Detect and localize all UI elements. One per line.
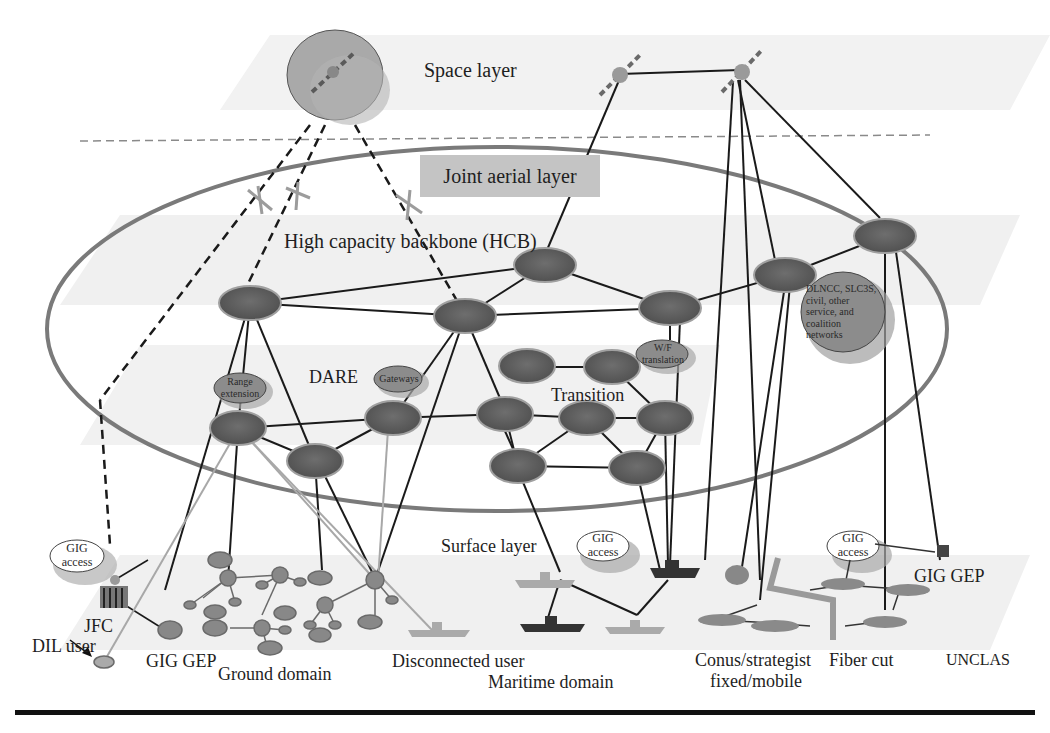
dlncc-networks-cloud: DLNCC, SLC3S, civil, other service, and …: [806, 283, 888, 341]
unclas-label: UNCLAS: [946, 651, 1010, 669]
dare-label: DARE: [309, 368, 358, 388]
gateways-cloud: Gateways: [374, 373, 424, 385]
hcb-node: [219, 286, 281, 320]
gig-gep-left-label: GIG GEP: [146, 652, 217, 672]
gig-access-cloud-right: GIG access: [830, 532, 876, 560]
hcb-node: [514, 248, 576, 282]
transition-label: Transition: [551, 386, 624, 406]
hcb-node: [434, 299, 496, 333]
fiber-cut-label: Fiber cut: [829, 651, 894, 671]
diagram-canvas: [0, 0, 1050, 733]
gig-access-cloud-left: GIG access: [54, 542, 100, 570]
joint-aerial-layer-label: Joint aerial layer: [443, 165, 576, 188]
conus-fixed-mobile-label: fixed/mobile: [710, 672, 802, 692]
conus-vehicle-icon: [725, 565, 749, 585]
conus-label: Conus/strategist: [695, 651, 811, 671]
jfc-label: JFC: [84, 617, 113, 637]
bottom-rule: [15, 710, 1035, 715]
link-failure-marks: [248, 182, 422, 220]
transition-node: [499, 349, 555, 383]
gig-access-cloud-mid: GIG access: [580, 532, 626, 560]
gig-gep-right-icon: [937, 545, 949, 557]
transition-node: [609, 451, 665, 485]
hcb-node: [854, 219, 916, 253]
hcb-label: High capacity backbone (HCB): [284, 230, 537, 252]
disconnected-user-label: Disconnected user: [392, 652, 524, 672]
hcb-node: [639, 291, 701, 325]
dare-node: [287, 444, 343, 478]
dare-node: [365, 401, 421, 435]
wf-translation-cloud: W/F translation: [637, 342, 689, 365]
gig-gep-right-label: GIG GEP: [914, 567, 985, 587]
ground-domain-label: Ground domain: [218, 665, 331, 685]
range-extension-cloud: Range extension: [215, 376, 265, 399]
transition-node: [584, 350, 640, 384]
surface-layer-label: Surface layer: [441, 537, 536, 557]
dil-user-label: DIL user: [32, 637, 96, 657]
joint-aerial-layer-box: Joint aerial layer: [420, 155, 600, 197]
gig-network-diagram: Space layer Joint aerial layer High capa…: [0, 0, 1050, 733]
transition-node: [490, 449, 546, 483]
dare-node: [210, 411, 266, 445]
space-layer-label: Space layer: [424, 59, 517, 81]
transition-node: [559, 401, 615, 435]
transition-node: [637, 401, 693, 435]
maritime-domain-label: Maritime domain: [488, 673, 613, 693]
disrupted-satellite-links: [100, 125, 460, 545]
transition-node: [477, 397, 533, 431]
